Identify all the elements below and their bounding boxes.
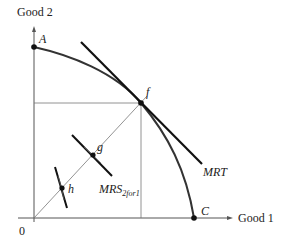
label-c: C [201,205,209,217]
point-h [59,185,64,190]
x-axis-label: Good 1 [238,212,274,224]
point-c [191,215,197,221]
point-f [138,100,144,106]
mrs-label-main: MRS [99,182,122,196]
label-g: g [97,141,103,153]
point-g [90,152,95,157]
mrs-label: MRS2for1 [99,183,140,198]
mrs-label-sub: 2for1 [122,189,139,198]
mrt-label: MRT [203,166,227,178]
x-axis-arrow-icon [227,216,233,220]
y-axis-arrow-icon [32,26,36,32]
label-h: h [68,183,74,195]
origin-label: 0 [19,225,25,237]
point-a [31,44,37,50]
y-axis-label: Good 2 [17,6,53,18]
label-f: f [146,86,149,98]
ray-from-origin [34,96,147,218]
label-a: A [39,33,46,45]
